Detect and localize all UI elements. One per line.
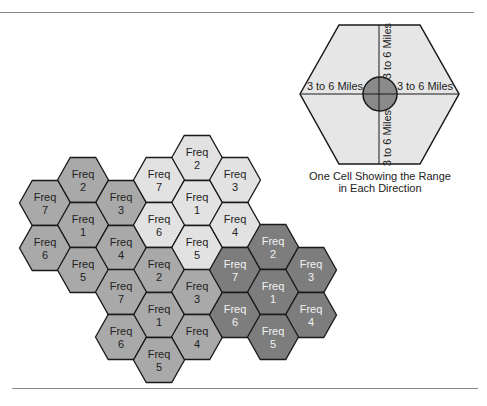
cell-label-word: Freq xyxy=(110,280,133,292)
cell-label-word: Freq xyxy=(72,213,95,225)
cell-label-number: 2 xyxy=(270,248,276,260)
cell-label-word: Freq xyxy=(72,168,95,180)
cell-label-word: Freq xyxy=(262,325,285,337)
cell-label-number: 7 xyxy=(42,204,48,216)
cell-label-number: 4 xyxy=(194,338,200,350)
caption-line-2: in Each Direction xyxy=(300,182,460,194)
cell-label-number: 5 xyxy=(156,361,162,373)
cell-label-number: 3 xyxy=(232,181,238,193)
range-label-left: 3 to 6 Miles xyxy=(307,80,364,92)
cell-label-number: 1 xyxy=(80,226,86,238)
cell-label-word: Freq xyxy=(72,258,95,270)
cell-label-word: Freq xyxy=(148,348,171,360)
range-label-bottom: 3 to 6 Miles xyxy=(381,109,393,166)
cell-label-word: Freq xyxy=(186,146,209,158)
cell-label-word: Freq xyxy=(300,303,323,315)
cell-label-number: 1 xyxy=(194,204,200,216)
cell-label-number: 6 xyxy=(156,226,162,238)
cell-label-word: Freq xyxy=(224,168,247,180)
single-cell-caption: One Cell Showing the Range in Each Direc… xyxy=(300,170,460,194)
cell-label-word: Freq xyxy=(148,258,171,270)
cell-label-word: Freq xyxy=(34,236,57,248)
range-label-right: 3 to 6 Miles xyxy=(397,80,454,92)
cell-label-number: 4 xyxy=(232,226,238,238)
cell-label-number: 6 xyxy=(232,316,238,328)
cell-label-number: 2 xyxy=(156,271,162,283)
cell-label-number: 3 xyxy=(308,271,314,283)
cell-label-word: Freq xyxy=(110,325,133,337)
cellular-diagram: Freq2Freq7Freq3Freq1Freq6Freq4Freq5Freq2… xyxy=(0,0,487,406)
cell-label-number: 2 xyxy=(194,159,200,171)
cell-label-word: Freq xyxy=(224,213,247,225)
cell-label-word: Freq xyxy=(186,191,209,203)
cell-label-number: 5 xyxy=(194,249,200,261)
cell-label-word: Freq xyxy=(262,235,285,247)
cell-label-word: Freq xyxy=(110,236,133,248)
cell-label-word: Freq xyxy=(224,258,247,270)
cell-label-number: 5 xyxy=(270,338,276,350)
cell-label-number: 3 xyxy=(118,204,124,216)
cell-label-word: Freq xyxy=(148,168,171,180)
cell-label-word: Freq xyxy=(34,191,57,203)
cell-label-number: 5 xyxy=(80,271,86,283)
single-cell-diagram: 3 to 6 Miles 3 to 6 Miles 3 to 6 Miles 3… xyxy=(300,22,459,166)
cell-label-word: Freq xyxy=(224,303,247,315)
cell-label-number: 3 xyxy=(194,293,200,305)
cell-label-word: Freq xyxy=(186,236,209,248)
range-label-top: 3 to 6 Miles xyxy=(381,22,393,79)
cell-label-number: 4 xyxy=(118,249,124,261)
cell-label-number: 6 xyxy=(118,338,124,350)
cell-label-word: Freq xyxy=(186,280,209,292)
cell-label-number: 6 xyxy=(42,249,48,261)
cell-label-number: 1 xyxy=(156,316,162,328)
cell-label-word: Freq xyxy=(262,280,285,292)
cell-label-number: 7 xyxy=(118,293,124,305)
cell-label-number: 1 xyxy=(270,293,276,305)
cell-label-number: 7 xyxy=(156,181,162,193)
frequency-reuse-grid: Freq2Freq7Freq3Freq1Freq6Freq4Freq5Freq2… xyxy=(20,136,337,383)
cell-label-word: Freq xyxy=(300,258,323,270)
cell-label-word: Freq xyxy=(186,325,209,337)
cell-label-word: Freq xyxy=(148,213,171,225)
cell-label-word: Freq xyxy=(148,303,171,315)
cell-label-word: Freq xyxy=(110,191,133,203)
cell-label-number: 2 xyxy=(80,181,86,193)
caption-line-1: One Cell Showing the Range xyxy=(300,170,460,182)
cell-label-number: 4 xyxy=(308,316,314,328)
cell-label-number: 7 xyxy=(232,271,238,283)
